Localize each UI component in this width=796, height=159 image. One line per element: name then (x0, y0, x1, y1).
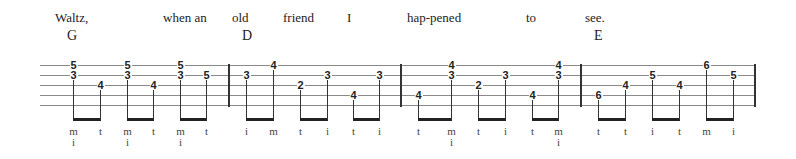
note-stem (598, 99, 599, 120)
picking-finger: i (450, 136, 453, 148)
fret-number: 4 (149, 80, 157, 90)
fret-number: 5 (648, 70, 656, 80)
picking-finger: t (205, 125, 208, 137)
barline (580, 64, 582, 107)
barline (754, 64, 756, 107)
fret-number: 3 (176, 70, 184, 80)
lyric-word: old (232, 10, 249, 26)
chord-symbol: E (594, 28, 603, 44)
picking-finger: t (597, 125, 600, 137)
picking-finger: m (702, 125, 711, 137)
note-stem (246, 79, 247, 120)
lyric-word: to (526, 10, 536, 26)
lyric-word: see. (585, 10, 605, 26)
fret-number: 3 (554, 70, 562, 80)
picking-finger: t (678, 125, 681, 137)
note-stem (478, 89, 479, 120)
picking-finger: i (326, 125, 329, 137)
eighth-beam (353, 118, 380, 121)
fret-number: 2 (474, 80, 482, 90)
lyric-word: I (347, 10, 351, 26)
fret-number: 3 (447, 70, 455, 80)
note-stem (418, 99, 419, 120)
note-stem (206, 79, 207, 120)
eighth-beam (180, 118, 207, 121)
picking-finger: t (352, 125, 355, 137)
picking-finger: i (651, 125, 654, 137)
lyric-word: Waltz, (55, 10, 88, 26)
lyric-word: hap-pened (407, 10, 461, 26)
fret-number: 6 (702, 60, 710, 70)
picking-finger: t (417, 125, 420, 137)
picking-finger: i (179, 136, 182, 148)
eighth-beam (418, 118, 452, 121)
note-stem (327, 79, 328, 120)
note-stem (733, 79, 734, 120)
fret-number: 4 (96, 80, 104, 90)
staff-line (40, 65, 754, 66)
fret-number: 4 (621, 80, 629, 90)
barline (228, 64, 230, 107)
fret-number: 4 (269, 60, 277, 70)
fret-number: 4 (528, 90, 536, 100)
note-stem (532, 99, 533, 120)
chord-symbol: D (242, 28, 252, 44)
eighth-beam (652, 118, 680, 121)
note-stem (625, 89, 626, 120)
picking-finger: t (531, 125, 534, 137)
note-stem (100, 89, 101, 120)
fret-number: 4 (675, 80, 683, 90)
note-stem (652, 79, 653, 120)
note-stem (300, 89, 301, 120)
note-stem (706, 69, 707, 120)
picking-finger: i (245, 125, 248, 137)
note-stem (505, 79, 506, 120)
fret-number: 5 (202, 70, 210, 80)
lyric-word: friend (283, 10, 314, 26)
picking-finger: m (269, 125, 278, 137)
picking-finger: i (732, 125, 735, 137)
picking-finger: t (99, 125, 102, 137)
fret-number: 3 (375, 70, 383, 80)
staff-line (40, 85, 754, 86)
staff-line (40, 75, 754, 76)
picking-finger: t (477, 125, 480, 137)
fret-number: 3 (123, 70, 131, 80)
note-stem (273, 69, 274, 120)
note-stem (679, 89, 680, 120)
fret-number: 4 (349, 90, 357, 100)
picking-finger: i (504, 125, 507, 137)
staff-line (40, 105, 754, 106)
eighth-beam (706, 118, 734, 121)
fret-number: 3 (242, 70, 250, 80)
picking-finger: i (557, 136, 560, 148)
fret-number: 2 (296, 80, 304, 90)
note-stem (353, 99, 354, 120)
eighth-beam (127, 118, 154, 121)
picking-finger: i (126, 136, 129, 148)
lyric-word: when an (163, 10, 207, 26)
eighth-beam (532, 118, 559, 121)
fret-number: 3 (501, 70, 509, 80)
picking-finger: t (152, 125, 155, 137)
fret-number: 3 (69, 70, 77, 80)
fret-number: 3 (323, 70, 331, 80)
barline (400, 64, 402, 107)
chord-symbol: G (67, 28, 77, 44)
fret-number: 6 (594, 90, 602, 100)
picking-finger: t (299, 125, 302, 137)
eighth-beam (73, 118, 101, 121)
eighth-beam (598, 118, 626, 121)
note-stem (379, 79, 380, 120)
fret-number: 5 (729, 70, 737, 80)
note-stem (153, 89, 154, 120)
eighth-beam (300, 118, 328, 121)
eighth-beam (478, 118, 506, 121)
picking-finger: i (72, 136, 75, 148)
fret-number: 4 (414, 90, 422, 100)
eighth-beam (246, 118, 274, 121)
staff-line (40, 95, 754, 96)
picking-finger: t (624, 125, 627, 137)
picking-finger: i (378, 125, 381, 137)
